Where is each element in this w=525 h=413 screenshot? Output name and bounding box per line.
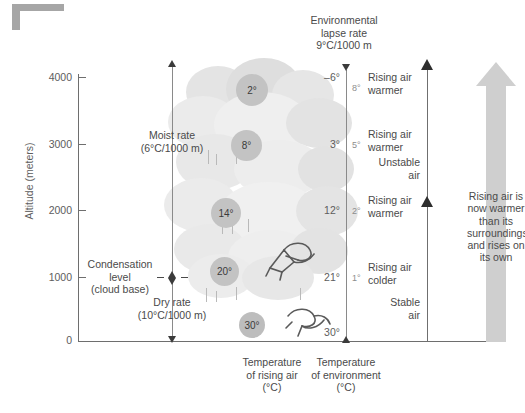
comparison-2000: Rising air warmer xyxy=(368,194,412,219)
rising-air-conclusion-arrow: Rising air is now warmer than its surrou… xyxy=(476,62,516,342)
comparison-3000: Rising air warmer xyxy=(368,128,412,153)
environment-caption-line1: Temperature xyxy=(274,356,418,369)
env-temp-1000: 21° xyxy=(314,271,340,283)
env-temp-3000: 3° xyxy=(314,138,340,150)
rising-air-arrowhead-up xyxy=(168,60,176,67)
env-header-line1: Environmental xyxy=(296,14,392,27)
parcel-temp-bubble-4000: 2° xyxy=(236,74,268,106)
y-tick xyxy=(79,144,86,145)
environment-caption-line2: of environment xyxy=(274,369,418,382)
env-temp-4000: –6° xyxy=(314,71,340,83)
moist-rate-line2: (6°C/1000 m) xyxy=(110,142,234,155)
unstable-air-line1: Unstable xyxy=(356,156,420,169)
env-temp-0: 30° xyxy=(314,326,340,338)
dry-rate-label: Dry rate (10°C/1000 m) xyxy=(104,296,240,321)
rain-streak xyxy=(216,154,217,165)
figure-canvas: 4000 3000 2000 1000 0 Altitude (meters) … xyxy=(0,0,525,413)
environment-axis xyxy=(346,70,347,342)
delta-4000: 8° xyxy=(352,83,361,93)
env-header-line3: 9°C/1000 m xyxy=(296,39,392,52)
parcel-temp-bubble-3000: 8° xyxy=(231,130,262,161)
env-header-line2: lapse rate xyxy=(296,27,392,40)
rising-air-conclusion-text: Rising air is now warmer than its surrou… xyxy=(467,190,525,264)
y-axis-title: Altitude (meters) xyxy=(23,126,35,236)
environment-arrowhead-up xyxy=(342,336,350,343)
condensation-level-label: Condensation level (cloud base) xyxy=(72,258,168,296)
comparison-3000-line1: Rising air xyxy=(368,128,412,141)
comparison-2000-line1: Rising air xyxy=(368,194,412,207)
comparison-4000: Rising air warmer xyxy=(368,71,412,96)
parcel-temp-bubble-2000: 14° xyxy=(211,198,241,228)
environmental-lapse-rate-header: Environmental lapse rate 9°C/1000 m xyxy=(296,14,392,52)
environment-caption-line3: (°C) xyxy=(274,381,418,394)
delta-2000: 2° xyxy=(352,206,361,216)
rain-streak xyxy=(248,219,249,232)
condensation-line2: level xyxy=(72,271,168,284)
comparison-4000-line2: warmer xyxy=(368,84,412,97)
comparison-2000-line2: warmer xyxy=(368,207,412,220)
crop-bracket-icon xyxy=(12,4,64,30)
parcel-temp-bubble-1000: 20° xyxy=(210,257,239,286)
stable-air-line1: Stable xyxy=(356,296,420,309)
y-tick-label-0: 0 xyxy=(26,334,72,346)
stable-air-arrowhead xyxy=(421,196,433,207)
env-temp-2000: 12° xyxy=(314,204,340,216)
y-axis-line xyxy=(78,74,79,342)
stable-air-label: Stable air xyxy=(356,296,420,321)
dry-rate-line2: (10°C/1000 m) xyxy=(104,309,240,322)
unstable-air-arrowhead xyxy=(421,59,433,70)
comparison-1000-line1: Rising air xyxy=(368,261,412,274)
rain-streak xyxy=(300,288,301,300)
y-tick xyxy=(79,210,86,211)
comparison-1000-line2: colder xyxy=(368,274,412,287)
dry-rate-line1: Dry rate xyxy=(104,296,240,309)
comparison-4000-line1: Rising air xyxy=(368,71,412,84)
delta-1000: 1° xyxy=(352,273,361,283)
stable-air-line2: air xyxy=(356,309,420,322)
x-axis-line xyxy=(78,341,498,342)
bird-sketch-icon xyxy=(264,238,320,282)
y-tick xyxy=(79,77,86,78)
condensation-level-marker xyxy=(157,271,189,285)
comparison-3000-line2: warmer xyxy=(368,141,412,154)
delta-3000: 5° xyxy=(352,140,361,150)
y-tick-label-1000: 1000 xyxy=(26,271,72,283)
parcel-temp-bubble-0: 30° xyxy=(239,312,265,338)
comparison-1000: Rising air colder xyxy=(368,261,412,286)
environment-axis-caption: Temperature of environment (°C) xyxy=(274,356,418,394)
environment-arrowhead-down xyxy=(342,64,350,71)
unstable-air-line2: air xyxy=(356,169,420,182)
unstable-air-label: Unstable air xyxy=(356,156,420,181)
rising-air-arrowhead-down xyxy=(168,336,176,343)
condensation-line3: (cloud base) xyxy=(72,283,168,296)
y-tick-label-4000: 4000 xyxy=(26,71,72,83)
moist-rate-label: Moist rate (6°C/1000 m) xyxy=(110,129,234,154)
condensation-line1: Condensation xyxy=(72,258,168,271)
moist-rate-line1: Moist rate xyxy=(110,129,234,142)
